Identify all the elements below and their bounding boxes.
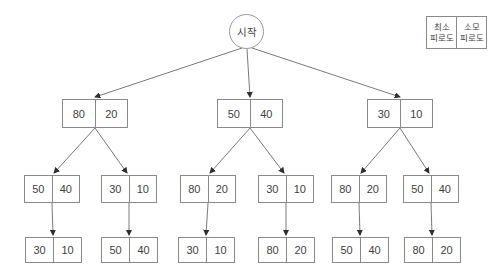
edge-l2c-l3e [361,128,400,173]
tree-node-l3-5: 80 20 [331,175,387,203]
legend-consumed-fatigue-line1: 소모 [464,22,480,33]
edge-l3a-l4a [52,203,53,235]
consumed-fatigue-value: 40 [52,176,80,202]
tree-node-l4-1: 30 10 [25,237,82,263]
root-label: 시작 [237,24,257,39]
min-fatigue-value: 50 [218,100,250,127]
tree-node-l2-1: 80 20 [62,99,128,128]
consumed-fatigue-value: 40 [360,238,388,262]
tree-diagram: 시작 최소 피로도 소모 피로도 80 20 50 40 30 10 50 40… [0,0,493,280]
min-fatigue-value: 50 [333,238,360,262]
legend-min-fatigue-line2: 피로도 [430,33,454,44]
tree-node-l4-4: 80 20 [258,237,315,263]
edge-root-l2c [252,48,400,97]
consumed-fatigue-value: 20 [286,238,314,262]
min-fatigue-value: 30 [259,176,286,202]
consumed-fatigue-value: 10 [129,176,157,202]
root-node-start: 시작 [229,14,264,49]
consumed-fatigue-value: 40 [129,238,157,262]
tree-node-l3-6: 50 40 [403,175,459,203]
edge-l2b-l3c [210,128,250,173]
edge-l3e-l4e [359,203,360,235]
edge-l2a-l3b [95,128,127,173]
tree-node-l3-2: 30 10 [101,175,157,203]
min-fatigue-value: 80 [181,176,208,202]
edge-l3c-l4c [206,203,208,235]
edge-l3f-l4f [431,203,432,235]
consumed-fatigue-value: 40 [431,176,459,202]
min-fatigue-value: 50 [102,238,129,262]
consumed-fatigue-value: 20 [208,176,236,202]
tree-node-l2-2: 50 40 [217,99,283,128]
consumed-fatigue-value: 20 [359,176,387,202]
consumed-fatigue-value: 20 [95,100,128,127]
consumed-fatigue-value: 10 [400,100,433,127]
tree-node-l4-6: 80 20 [404,237,461,263]
min-fatigue-value: 80 [332,176,359,202]
consumed-fatigue-value: 10 [286,176,314,202]
legend-min-fatigue: 최소 피로도 [426,16,457,49]
edge-l2c-l3f [400,128,429,173]
legend-consumed-fatigue-line2: 피로도 [460,33,484,44]
tree-node-l3-3: 80 20 [180,175,236,203]
min-fatigue-value: 50 [404,176,431,202]
min-fatigue-value: 80 [259,238,286,262]
legend-consumed-fatigue: 소모 피로도 [456,16,487,49]
edge-root-l2b [247,49,250,97]
tree-node-l4-3: 30 10 [178,237,235,263]
consumed-fatigue-value: 40 [250,100,283,127]
tree-node-l3-1: 50 40 [24,175,80,203]
edge-l2a-l3a [54,128,95,173]
legend-min-fatigue-line1: 최소 [434,22,450,33]
edge-root-l2a [95,48,242,97]
tree-node-l4-5: 50 40 [332,237,389,263]
edge-l2b-l3d [250,128,284,173]
min-fatigue-value: 30 [179,238,206,262]
consumed-fatigue-value: 10 [53,238,81,262]
consumed-fatigue-value: 20 [432,238,460,262]
legend: 최소 피로도 소모 피로도 [426,16,487,49]
min-fatigue-value: 50 [25,176,52,202]
min-fatigue-value: 30 [368,100,400,127]
tree-node-l4-2: 50 40 [101,237,158,263]
tree-node-l2-3: 30 10 [367,99,433,128]
consumed-fatigue-value: 10 [206,238,234,262]
min-fatigue-value: 80 [405,238,432,262]
min-fatigue-value: 30 [102,176,129,202]
min-fatigue-value: 80 [63,100,95,127]
min-fatigue-value: 30 [26,238,53,262]
tree-node-l3-4: 30 10 [258,175,314,203]
